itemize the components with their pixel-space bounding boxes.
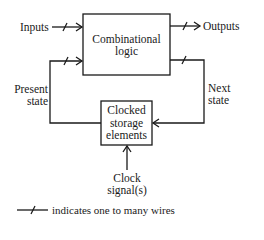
storage-elements-label: Clocked storage elements — [101, 104, 152, 142]
clock-label: Clock signal(s) — [97, 172, 157, 196]
present-state-line1: Present — [4, 83, 48, 95]
combinational-logic-label: Combinational logic — [83, 33, 170, 57]
clock-line2: signal(s) — [97, 184, 157, 196]
next-state-path — [153, 56, 204, 127]
storage-line3: elements — [101, 129, 152, 142]
present-state-label: Present state — [4, 83, 48, 107]
combinational-line1: Combinational — [83, 33, 170, 45]
inputs-label: Inputs — [20, 21, 49, 33]
next-state-label: Next state — [208, 82, 230, 106]
clock-arrow — [123, 146, 131, 170]
next-state-line2: state — [208, 94, 230, 106]
present-state-line2: state — [4, 95, 48, 107]
outputs-arrow — [170, 22, 200, 30]
present-state-path — [50, 57, 101, 123]
next-state-line1: Next — [208, 82, 230, 94]
storage-line1: Clocked — [101, 104, 152, 117]
outputs-label: Outputs — [203, 20, 239, 32]
clock-line1: Clock — [97, 172, 157, 184]
legend-text: indicates one to many wires — [52, 204, 175, 216]
storage-line2: storage — [101, 117, 152, 130]
combinational-line2: logic — [83, 45, 170, 57]
legend-bus-symbol — [17, 206, 48, 214]
inputs-arrow — [52, 23, 82, 31]
